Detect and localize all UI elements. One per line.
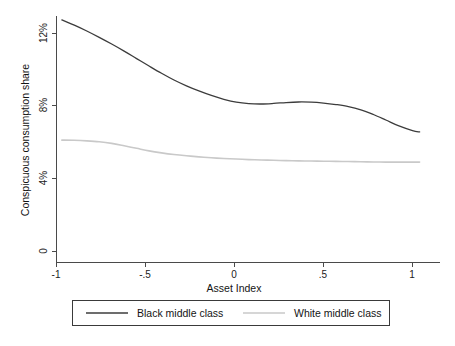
- x-tick-label-0point5: .5: [319, 269, 328, 280]
- y-tick-label-12: 12%: [38, 23, 49, 43]
- series-line-black-middle-class: [62, 20, 420, 132]
- legend-label-black-middle-class: Black middle class: [137, 307, 223, 319]
- y-tick-label-4: 4%: [38, 171, 49, 186]
- series-line-white-middle-class: [62, 140, 420, 162]
- x-tick-label-neg1: -1: [52, 269, 61, 280]
- x-axis-title: Asset Index: [207, 282, 263, 294]
- x-tick-label-0: 0: [231, 269, 237, 280]
- line-chart: Conspicuous consumption share 12% 8% 4% …: [0, 0, 455, 346]
- legend: Black middle class White middle class: [73, 301, 390, 326]
- chart-container: Conspicuous consumption share 12% 8% 4% …: [0, 0, 455, 346]
- y-tick-label-8: 8%: [38, 98, 49, 113]
- y-tick-label-0: 0: [38, 248, 49, 254]
- y-axis-title: Conspicuous consumption share: [19, 64, 31, 216]
- x-tick-label-1: 1: [409, 269, 415, 280]
- legend-label-white-middle-class: White middle class: [294, 307, 382, 319]
- x-tick-label-neg0point5: -.5: [139, 269, 151, 280]
